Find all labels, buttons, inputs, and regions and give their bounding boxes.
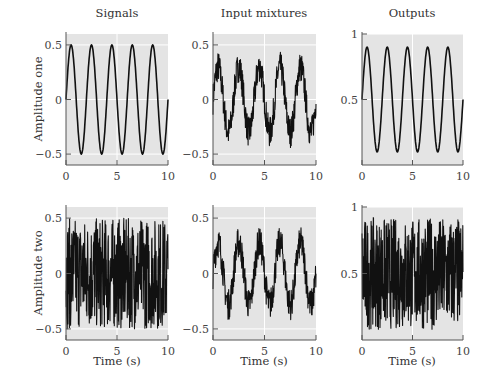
- svg-text:10: 10: [161, 345, 175, 358]
- svg-text:0: 0: [210, 345, 217, 358]
- svg-text:0: 0: [202, 94, 209, 107]
- svg-text:0: 0: [210, 170, 217, 183]
- panel-signals-one: 0.50−0.50510: [35, 32, 175, 183]
- svg-text:0.5: 0.5: [192, 212, 210, 225]
- svg-text:0: 0: [55, 94, 62, 107]
- svg-text:1: 1: [351, 201, 358, 214]
- svg-text:0.5: 0.5: [341, 268, 359, 281]
- svg-text:0.5: 0.5: [45, 39, 63, 52]
- svg-text:0: 0: [202, 268, 209, 281]
- panel-mixtures-one: 0.50−0.50510: [182, 32, 323, 183]
- svg-text:0.5: 0.5: [192, 39, 210, 52]
- svg-text:5: 5: [114, 345, 121, 358]
- svg-text:0.5: 0.5: [341, 94, 359, 107]
- svg-text:10: 10: [161, 170, 175, 183]
- svg-text:0: 0: [359, 345, 366, 358]
- panel-mixtures-two: 0.50−0.50510: [182, 205, 323, 358]
- svg-text:10: 10: [309, 345, 323, 358]
- svg-text:5: 5: [409, 345, 416, 358]
- svg-text:10: 10: [456, 345, 470, 358]
- svg-text:10: 10: [456, 170, 470, 183]
- svg-text:0: 0: [55, 268, 62, 281]
- svg-text:−0.5: −0.5: [182, 148, 209, 161]
- svg-text:0: 0: [63, 345, 70, 358]
- svg-text:0.5: 0.5: [45, 212, 63, 225]
- panel-outputs-two: 10.50510: [341, 201, 471, 358]
- svg-text:5: 5: [409, 170, 416, 183]
- svg-text:10: 10: [309, 170, 323, 183]
- panel-signals-two: 0.50−0.50510: [35, 205, 175, 358]
- svg-text:−0.5: −0.5: [182, 323, 209, 336]
- svg-text:−0.5: −0.5: [35, 323, 62, 336]
- svg-text:5: 5: [114, 170, 121, 183]
- svg-text:5: 5: [261, 345, 268, 358]
- svg-text:0: 0: [63, 170, 70, 183]
- figure-plots: 0.50−0.50510 0.50−0.50510 10.50510 0.50−…: [0, 0, 485, 388]
- svg-text:−0.5: −0.5: [35, 148, 62, 161]
- svg-text:5: 5: [261, 170, 268, 183]
- panel-outputs-one: 10.50510: [341, 28, 471, 183]
- svg-text:1: 1: [351, 28, 358, 41]
- svg-text:0: 0: [359, 170, 366, 183]
